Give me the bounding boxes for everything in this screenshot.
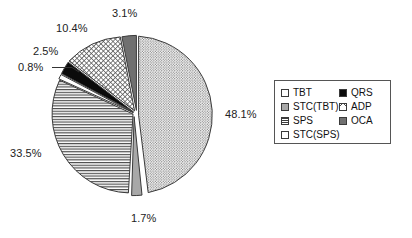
legend-label-stc-sps: STC(SPS) (293, 128, 340, 142)
pie-label-sps: 33.5% (10, 147, 42, 159)
legend-item-tbt[interactable]: TBT (281, 86, 339, 100)
legend-swatch-tbt-icon (281, 89, 289, 97)
legend-item-adp[interactable]: ADP (339, 100, 387, 114)
legend-swatch-qrs-icon (339, 89, 347, 97)
legend-swatch-stc-sps-icon (281, 131, 289, 139)
legend-item-sps[interactable]: SPS (281, 114, 339, 128)
legend-swatch-adp-icon (339, 103, 347, 111)
legend-label-adp: ADP (351, 100, 372, 114)
pie-slice-tbt (139, 36, 213, 192)
legend-swatch-oca-icon (339, 117, 347, 125)
legend-item-oca[interactable]: OCA (339, 114, 387, 128)
legend-entries: TBT QRS STC(TBT) ADP SPS OCA (281, 86, 387, 142)
legend-label-sps: SPS (293, 114, 313, 128)
legend-swatch-stc-tbt-icon (281, 103, 289, 111)
pie-label-stc-sps: 0.8% (18, 61, 43, 73)
pie-label-qrs: 2.5% (33, 45, 58, 57)
legend-label-tbt: TBT (293, 86, 312, 100)
legend-swatch-sps-icon (281, 117, 289, 125)
legend-item-stc-sps[interactable]: STC(SPS) (281, 128, 339, 142)
pie-label-stc-tbt: 1.7% (131, 212, 156, 224)
legend-item-qrs[interactable]: QRS (339, 86, 387, 100)
legend-label-stc-tbt: STC(TBT) (293, 100, 339, 114)
pie-label-oca: 3.1% (112, 7, 137, 19)
legend-label-oca: OCA (351, 114, 373, 128)
legend-label-qrs: QRS (351, 86, 373, 100)
legend-item-stc-tbt[interactable]: STC(TBT) (281, 100, 339, 114)
pie-label-tbt: 48.1% (225, 108, 257, 120)
chart-legend: TBT QRS STC(TBT) ADP SPS OCA (274, 80, 391, 144)
pie-label-adp: 10.4% (56, 22, 88, 34)
pie-chart-figure: 48.1% 1.7% 33.5% 0.8% 2.5% 10.4% 3.1% TB… (0, 0, 412, 238)
pie-slices (52, 35, 212, 195)
